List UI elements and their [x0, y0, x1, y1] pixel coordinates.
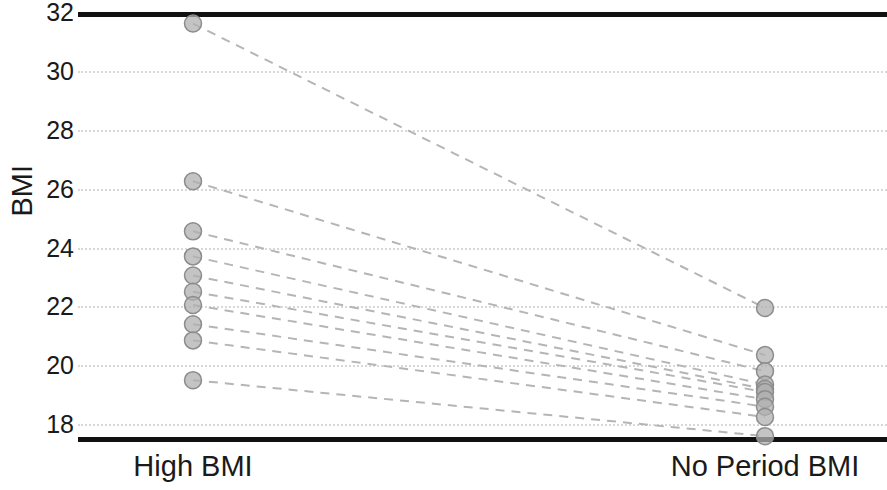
y-tick-label-18: 18: [26, 412, 74, 437]
data-point-marker: [185, 223, 202, 240]
y-tick-label-26: 26: [26, 176, 74, 201]
data-point-marker: [757, 299, 774, 316]
data-point-marker: [185, 332, 202, 349]
data-point-marker: [185, 267, 202, 284]
y-axis-tick-labels: 1820222426283032: [26, 0, 74, 490]
connector-line: [193, 292, 765, 392]
slope-chart-figure: BMI 1820222426283032 High BMINo Period B…: [0, 0, 887, 490]
connector-line: [193, 380, 765, 436]
data-point-marker: [185, 372, 202, 389]
x-tick-label-1: High BMI: [133, 450, 252, 483]
y-tick-label-22: 22: [26, 294, 74, 319]
x-tick-label-2: No Period BMI: [671, 450, 860, 483]
y-tick-label-30: 30: [26, 58, 74, 83]
y-tick-label-24: 24: [26, 235, 74, 260]
data-point-marker: [185, 297, 202, 314]
y-tick-label-20: 20: [26, 353, 74, 378]
connector-line: [193, 181, 765, 355]
plot-area: [78, 0, 887, 445]
x-axis-tick-labels: High BMINo Period BMI: [78, 450, 887, 490]
y-tick-label-32: 32: [26, 0, 74, 24]
connector-line: [193, 231, 765, 371]
data-point-marker: [185, 248, 202, 265]
connector-line: [193, 24, 765, 308]
data-point-marker: [757, 409, 774, 426]
data-layer: [78, 0, 887, 445]
data-point-marker: [185, 316, 202, 333]
data-point-marker: [185, 15, 202, 32]
data-point-marker: [185, 173, 202, 190]
y-tick-label-28: 28: [26, 117, 74, 142]
data-point-marker: [757, 347, 774, 364]
connector-lines: [193, 24, 765, 437]
data-point-markers: [185, 15, 774, 445]
connector-line: [193, 276, 765, 389]
data-point-marker: [757, 428, 774, 445]
